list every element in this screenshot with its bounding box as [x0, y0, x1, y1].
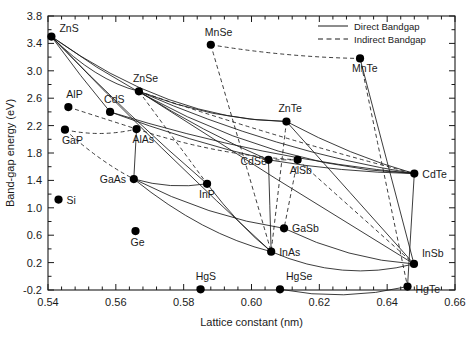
data-point-marker[interactable]	[403, 282, 411, 290]
data-point-label: InAs	[279, 246, 300, 258]
data-point-marker[interactable]	[54, 195, 62, 203]
data-point-marker[interactable]	[267, 248, 275, 256]
legend-label: Indirect Bandgap	[354, 34, 426, 45]
x-tick-label: 0.58	[173, 296, 194, 308]
data-point-label: Ge	[131, 236, 145, 248]
y-tick-label: -0.2	[23, 284, 42, 296]
data-point-label: AlAs	[133, 133, 155, 145]
chart-svg: 0.540.560.580.600.620.640.66-0.20.20.61.…	[0, 0, 471, 340]
data-point-label: HgSe	[286, 270, 312, 282]
data-point-marker[interactable]	[203, 180, 211, 188]
y-axis-title: Band-gap energy (eV)	[4, 99, 16, 207]
data-point-label: InSb	[422, 247, 444, 259]
data-point-label: AlP	[66, 88, 82, 100]
data-point-label: GaSb	[292, 222, 319, 234]
data-point-marker[interactable]	[64, 103, 72, 111]
data-point-label: Si	[67, 194, 76, 206]
y-tick-label: 1.4	[27, 174, 42, 186]
x-tick-label: 0.62	[309, 296, 330, 308]
data-point-marker[interactable]	[410, 260, 418, 268]
x-tick-label: 0.60	[241, 296, 262, 308]
data-point-marker[interactable]	[132, 125, 140, 133]
data-point-label: HgTe	[416, 283, 441, 295]
y-tick-label: 2.6	[27, 92, 42, 104]
bandgap-lattice-chart: 0.540.560.580.600.620.640.66-0.20.20.61.…	[0, 0, 471, 340]
y-tick-label: 0.2	[27, 257, 42, 269]
data-point-marker[interactable]	[356, 54, 364, 62]
data-point-label: CdSe	[240, 155, 266, 167]
data-point-label: GaP	[62, 134, 83, 146]
data-point-marker[interactable]	[197, 285, 205, 293]
data-point-marker[interactable]	[131, 227, 139, 235]
data-point-label: CdS	[104, 93, 124, 105]
data-point-marker[interactable]	[207, 41, 215, 49]
data-point-marker[interactable]	[294, 156, 302, 164]
x-tick-label: 0.66	[444, 296, 465, 308]
y-tick-label: 3.4	[27, 37, 42, 49]
y-tick-label: 1.0	[27, 202, 42, 214]
data-point-label: ZnS	[59, 22, 78, 34]
data-point-marker[interactable]	[61, 126, 69, 134]
data-point-label: ZnTe	[278, 102, 302, 114]
data-point-label: MnSe	[205, 26, 233, 38]
data-point-label: ZnSe	[133, 72, 158, 84]
data-point-label: AlSb	[290, 164, 312, 176]
y-tick-label: 2.2	[27, 120, 42, 132]
x-tick-label: 0.64	[376, 296, 397, 308]
data-point-marker[interactable]	[282, 117, 290, 125]
data-point-label: GaAs	[100, 173, 126, 185]
data-point[interactable]: HgTe	[403, 282, 440, 294]
x-axis-title: Lattice constant (nm)	[200, 316, 303, 328]
data-point-marker[interactable]	[106, 108, 114, 116]
data-point-label: InP	[199, 188, 215, 200]
data-point-label: CdTe	[422, 168, 447, 180]
data-point-label: HgS	[196, 270, 216, 282]
plot-frame	[48, 16, 455, 290]
data-point-marker[interactable]	[130, 175, 138, 183]
legend-label: Direct Bandgap	[354, 21, 419, 32]
y-tick-label: 0.6	[27, 229, 42, 241]
x-tick-label: 0.54	[37, 296, 58, 308]
y-tick-label: 1.8	[27, 147, 42, 159]
y-tick-label: 3.8	[27, 10, 42, 22]
data-point-marker[interactable]	[47, 32, 55, 40]
x-tick-label: 0.56	[105, 296, 126, 308]
data-point-marker[interactable]	[276, 285, 284, 293]
data-point-marker[interactable]	[280, 224, 288, 232]
data-point-marker[interactable]	[135, 87, 143, 95]
data-point-marker[interactable]	[410, 169, 418, 177]
data-point-label: MnTe	[352, 62, 378, 74]
y-tick-label: 3.0	[27, 65, 42, 77]
